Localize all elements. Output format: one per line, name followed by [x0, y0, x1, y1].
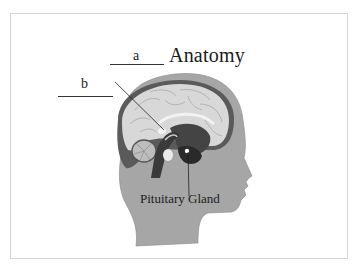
blank-label-b: b: [81, 76, 88, 92]
pituitary-gland-label: Pituitary Gland: [140, 191, 220, 207]
head-brain-illustration: [0, 0, 355, 267]
diagram-title: Anatomy: [169, 44, 245, 67]
pituitary-marker: [185, 149, 189, 153]
pineal-region: [158, 128, 166, 134]
blank-label-a: a: [133, 48, 139, 64]
pons: [163, 149, 173, 161]
